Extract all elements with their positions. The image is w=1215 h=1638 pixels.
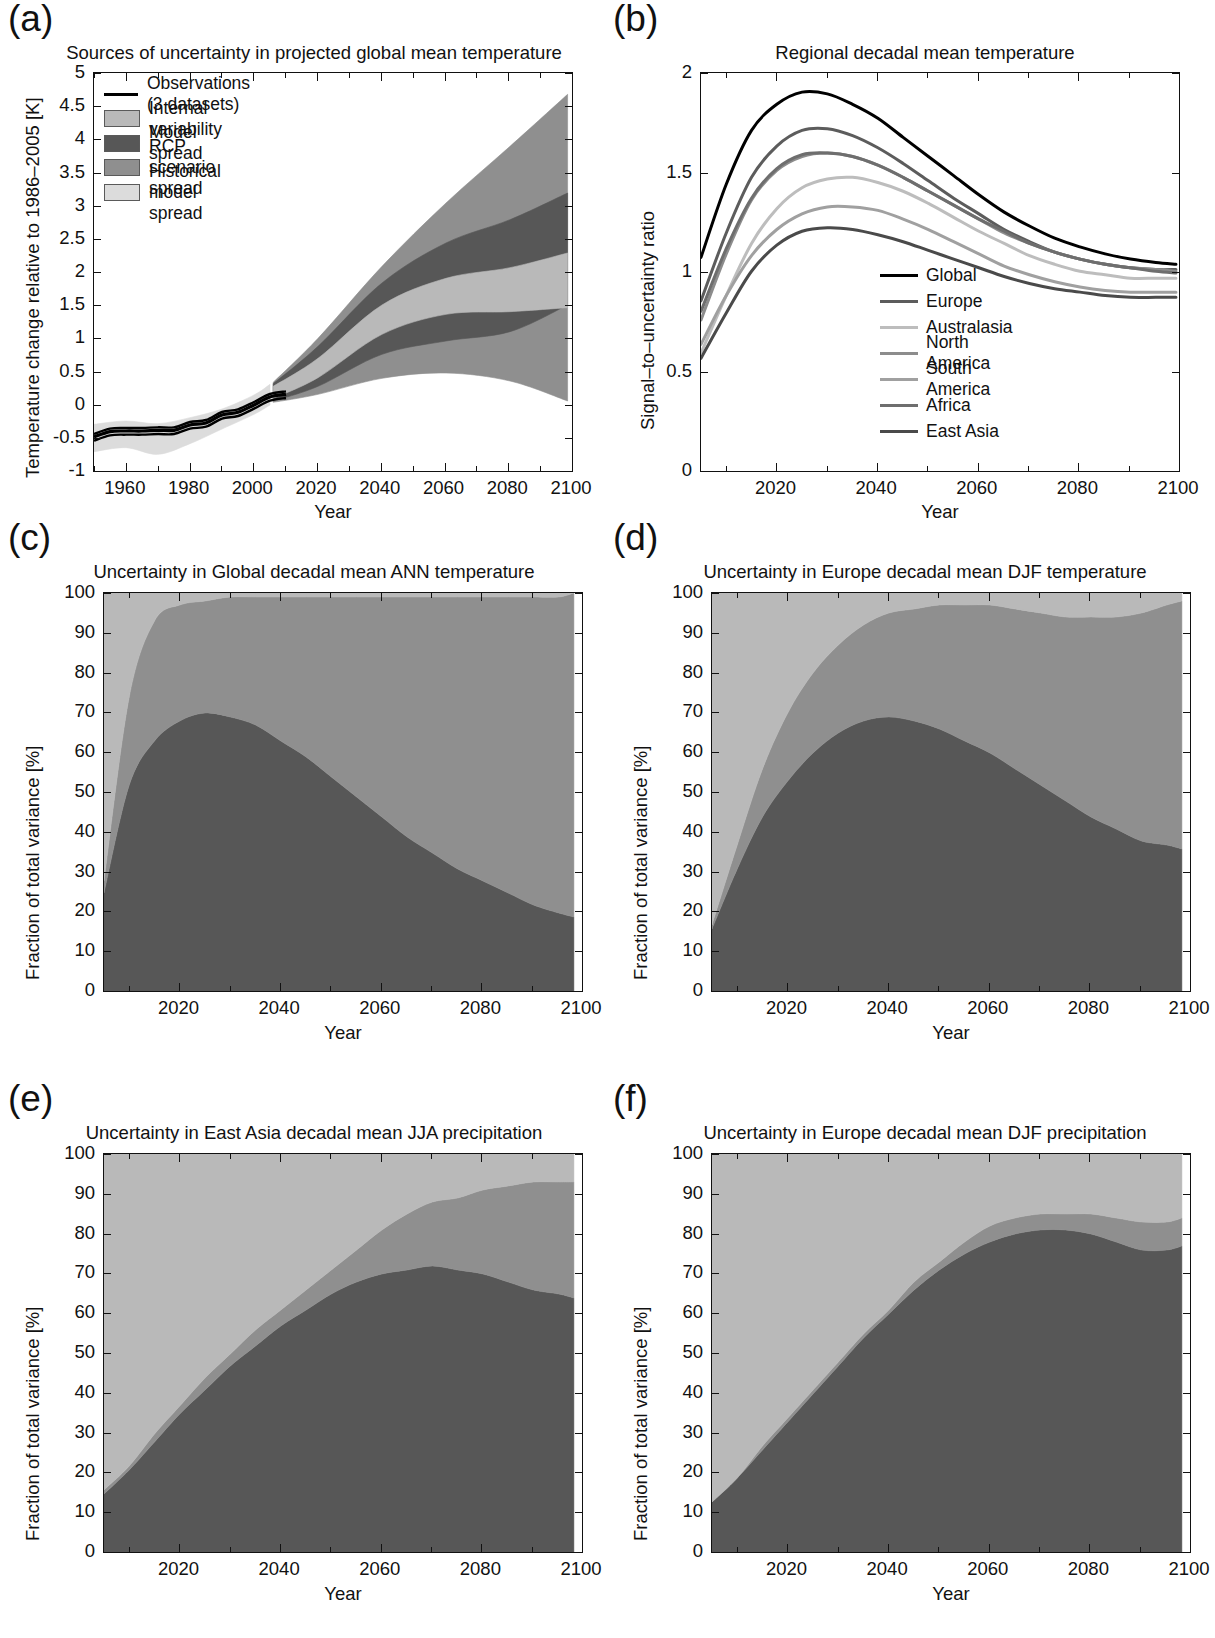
y-tick-mark xyxy=(712,792,719,793)
y-tick-mark xyxy=(1183,1353,1190,1354)
x-minor-tick-mark xyxy=(737,593,738,598)
y-tick-label: 30 xyxy=(39,860,95,882)
x-minor-tick-mark xyxy=(330,1547,331,1552)
x-tick-label: 2100 xyxy=(550,477,591,499)
x-minor-tick-mark xyxy=(532,1547,533,1552)
y-tick-label: 60 xyxy=(39,1301,95,1323)
x-tick-mark xyxy=(190,463,191,471)
y-tick-label: 60 xyxy=(647,740,703,762)
x-tick-mark xyxy=(508,73,509,81)
y-tick-label: 2 xyxy=(636,61,692,83)
y-tick-label: 4.5 xyxy=(29,94,85,116)
x-tick-label: 2060 xyxy=(359,997,400,1019)
x-tick-mark xyxy=(1190,593,1191,601)
x-tick-mark xyxy=(179,1544,180,1552)
y-tick-mark xyxy=(575,792,582,793)
y-tick-mark xyxy=(94,305,101,306)
y-tick-mark xyxy=(712,1273,719,1274)
y-tick-mark xyxy=(565,239,572,240)
panel-f-plot-area xyxy=(711,1153,1191,1553)
y-tick-mark xyxy=(104,1393,111,1394)
panel-c-title: Uncertainty in Global decadal mean ANN t… xyxy=(34,561,594,583)
y-tick-mark xyxy=(712,673,719,674)
y-tick-mark xyxy=(1183,1433,1190,1434)
y-tick-label: 100 xyxy=(39,581,95,603)
y-tick-mark xyxy=(1183,1552,1190,1553)
y-tick-mark xyxy=(575,832,582,833)
y-tick-mark xyxy=(575,1194,582,1195)
x-tick-mark xyxy=(978,73,979,81)
legend-item: Europe xyxy=(880,288,1013,314)
y-tick-mark xyxy=(94,338,101,339)
y-tick-mark xyxy=(94,139,101,140)
y-tick-label: 1.5 xyxy=(29,293,85,315)
x-tick-mark xyxy=(381,1154,382,1162)
y-tick-label: 50 xyxy=(39,780,95,802)
y-tick-mark xyxy=(1183,1154,1190,1155)
x-minor-tick-mark xyxy=(431,1154,432,1159)
x-minor-tick-mark xyxy=(285,466,286,471)
y-tick-mark xyxy=(701,272,708,273)
x-minor-tick-mark xyxy=(1140,593,1141,598)
x-tick-mark xyxy=(787,983,788,991)
x-minor-tick-mark xyxy=(532,593,533,598)
x-minor-tick-mark xyxy=(1140,1154,1141,1159)
panel-b-legend: GlobalEuropeAustralasiaNorth AmericaSout… xyxy=(880,262,1013,444)
y-tick-mark xyxy=(565,206,572,207)
x-tick-label: 2080 xyxy=(1068,1558,1109,1580)
panel-b-title: Regional decadal mean temperature xyxy=(645,42,1205,64)
y-tick-label: 5 xyxy=(29,61,85,83)
y-tick-mark xyxy=(565,338,572,339)
x-minor-tick-mark xyxy=(827,73,828,78)
y-tick-mark xyxy=(575,1353,582,1354)
y-tick-mark xyxy=(575,673,582,674)
y-tick-mark xyxy=(1183,1472,1190,1473)
x-tick-mark xyxy=(989,983,990,991)
y-tick-label: 10 xyxy=(39,939,95,961)
x-tick-mark xyxy=(877,73,878,81)
x-tick-mark xyxy=(989,1154,990,1162)
x-minor-tick-mark xyxy=(737,1547,738,1552)
x-minor-tick-mark xyxy=(230,593,231,598)
y-tick-label: 1.5 xyxy=(636,161,692,183)
y-tick-label: 2.5 xyxy=(29,227,85,249)
x-tick-label: 2040 xyxy=(856,477,897,499)
y-tick-label: 40 xyxy=(39,820,95,842)
x-minor-tick-mark xyxy=(476,466,477,471)
y-tick-mark xyxy=(1183,1194,1190,1195)
panel-a-x-axis-label: Year xyxy=(93,501,573,523)
x-tick-mark xyxy=(888,1154,889,1162)
x-tick-mark xyxy=(1078,73,1079,81)
y-tick-mark xyxy=(712,1154,719,1155)
x-minor-tick-mark xyxy=(1140,1547,1141,1552)
y-tick-label: 10 xyxy=(647,1500,703,1522)
x-minor-tick-mark xyxy=(938,986,939,991)
x-tick-mark xyxy=(572,463,573,471)
x-minor-tick-mark xyxy=(129,593,130,598)
x-minor-tick-mark xyxy=(726,73,727,78)
x-tick-mark xyxy=(179,983,180,991)
x-tick-label: 2080 xyxy=(1057,477,1098,499)
x-minor-tick-mark xyxy=(431,986,432,991)
y-tick-mark xyxy=(104,593,111,594)
y-tick-mark xyxy=(1172,471,1179,472)
y-tick-mark xyxy=(104,991,111,992)
uncertainty-band-historical-model-spread xyxy=(94,384,270,454)
legend-label: East Asia xyxy=(926,421,999,442)
y-tick-label: 1 xyxy=(636,260,692,282)
x-minor-tick-mark xyxy=(129,986,130,991)
x-minor-tick-mark xyxy=(330,593,331,598)
x-tick-mark xyxy=(381,463,382,471)
panel-e-plot-area xyxy=(103,1153,583,1553)
panel-d-title: Uncertainty in Europe decadal mean DJF t… xyxy=(645,561,1205,583)
y-tick-mark xyxy=(712,1552,719,1553)
panel-a-title: Sources of uncertainty in projected glob… xyxy=(34,42,594,64)
x-tick-mark xyxy=(877,463,878,471)
x-tick-mark xyxy=(508,463,509,471)
x-tick-mark xyxy=(381,1544,382,1552)
y-tick-mark xyxy=(1183,633,1190,634)
y-tick-mark xyxy=(104,1552,111,1553)
y-tick-mark xyxy=(565,173,572,174)
y-tick-mark xyxy=(575,951,582,952)
y-tick-label: 60 xyxy=(39,740,95,762)
